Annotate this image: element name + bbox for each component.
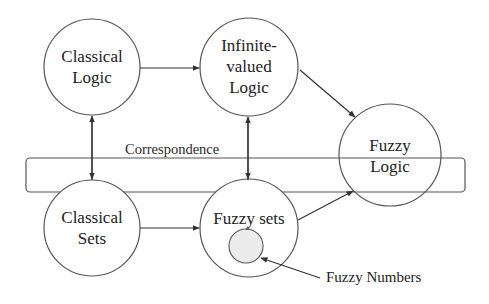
edge-fuzzy-sets-to-fuzzy-logic	[298, 191, 353, 220]
label-fuzzy-numbers: Fuzzy Numbers	[326, 267, 421, 288]
node-fuzzy-numbers	[229, 229, 263, 263]
edge-infinite-valued-to-fuzzy-logic	[300, 70, 355, 117]
label-correspondence: Correspondence	[125, 141, 219, 158]
label-classical-logic: Classical Logic	[52, 46, 132, 88]
label-classical-sets: Classical Sets	[52, 207, 132, 249]
label-infinite-valued-logic: Infinite- valued Logic	[209, 35, 289, 98]
label-fuzzy-logic: Fuzzy Logic	[350, 135, 430, 177]
label-fuzzy-sets: Fuzzy sets	[204, 208, 294, 229]
